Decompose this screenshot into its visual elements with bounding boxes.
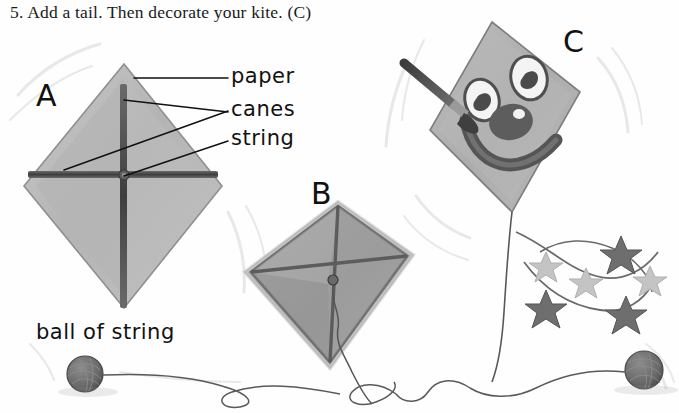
callout-label-string: string bbox=[231, 126, 294, 150]
string-from-left-ball bbox=[103, 374, 340, 407]
kite-c-string bbox=[492, 212, 512, 382]
tail-star-dark-1 bbox=[600, 236, 642, 274]
paintbrush-handle bbox=[404, 63, 454, 105]
kite-illustration-artwork bbox=[0, 0, 679, 413]
kite-b-string-knot bbox=[328, 275, 338, 285]
string-from-right-ball bbox=[396, 371, 625, 401]
figure-letter-c: C bbox=[563, 24, 584, 59]
figure-letter-a: A bbox=[36, 78, 57, 113]
tail-star-light-2 bbox=[569, 268, 603, 298]
tail-star-dark-3 bbox=[605, 296, 647, 334]
string-loop-middle bbox=[350, 382, 396, 404]
ball-of-string-left bbox=[67, 356, 340, 407]
kite-b bbox=[245, 202, 413, 404]
instruction-text: 5. Add a tail. Then decorate your kite. … bbox=[10, 2, 430, 28]
illustration-page: 5. Add a tail. Then decorate your kite. … bbox=[0, 0, 679, 413]
ball-of-string-right bbox=[350, 351, 663, 404]
kite-a-vertical-cane bbox=[120, 84, 127, 308]
ground-shadows bbox=[58, 385, 678, 397]
callout-label-canes: canes bbox=[231, 97, 295, 121]
kite-c bbox=[404, 22, 667, 382]
callout-label-ball-of-string: ball of string bbox=[36, 320, 175, 344]
figure-letter-b: B bbox=[311, 176, 332, 211]
callout-label-paper: paper bbox=[231, 64, 295, 88]
